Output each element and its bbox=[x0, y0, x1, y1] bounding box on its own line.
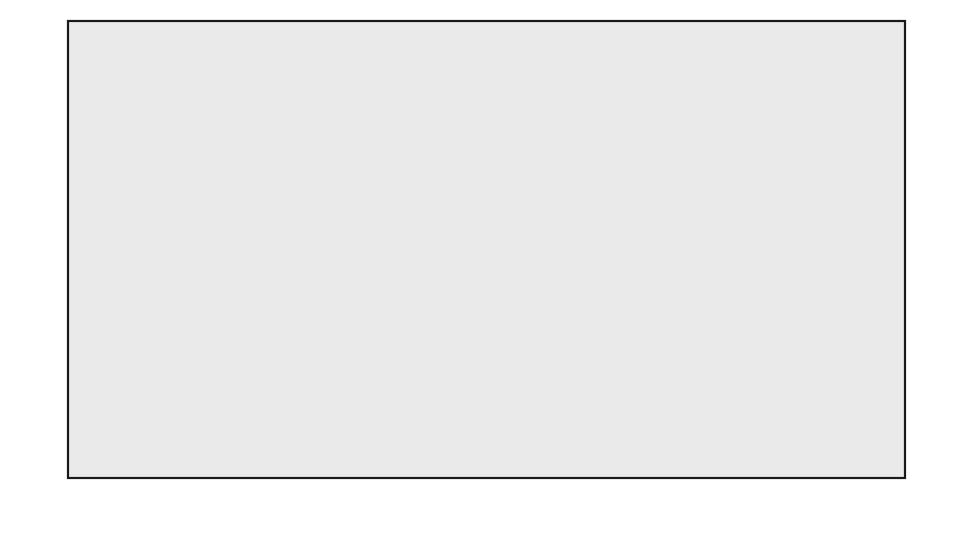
line-chart-svg bbox=[0, 0, 953, 540]
chart-figure bbox=[0, 0, 953, 540]
plot-background bbox=[68, 21, 905, 478]
